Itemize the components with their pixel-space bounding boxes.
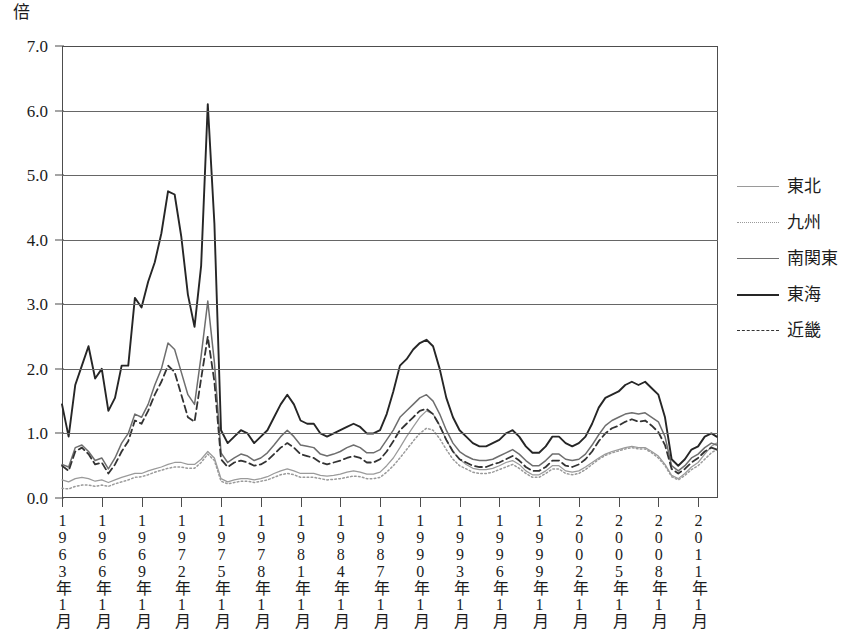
chart-legend: 東北九州南関東東海近畿 — [737, 168, 861, 348]
gridline — [62, 369, 718, 370]
y-tick-label: 6.0 — [27, 102, 48, 119]
legend-line-swatch-tokai — [737, 287, 779, 301]
gridline — [62, 240, 718, 241]
x-tick-label: 1966年1月 — [94, 512, 110, 629]
gridline — [62, 175, 718, 176]
legend-line-swatch-tohoku — [737, 179, 779, 193]
x-tick-mark — [142, 498, 143, 507]
x-tick-mark — [261, 498, 262, 507]
gridline — [62, 304, 718, 305]
legend-label-tohoku: 東北 — [787, 177, 821, 195]
y-tick-label: 7.0 — [27, 38, 48, 55]
legend-label-tokai: 東海 — [787, 285, 821, 303]
y-axis: 7.06.05.04.03.02.01.00.0 — [0, 0, 62, 614]
x-tick-label: 2002年1月 — [571, 512, 587, 629]
x-tick-label: 1978年1月 — [253, 512, 269, 629]
plot-area — [62, 46, 718, 498]
x-tick-mark — [619, 498, 620, 507]
x-tick-mark — [102, 498, 103, 507]
x-tick-mark — [221, 498, 222, 507]
legend-label-minamikanto: 南関東 — [787, 249, 838, 267]
legend-item-tohoku[interactable]: 東北 — [737, 168, 861, 204]
y-tick-label: 1.0 — [27, 425, 48, 442]
x-tick-mark — [301, 498, 302, 507]
x-tick-label: 1987年1月 — [372, 512, 388, 629]
series-line-tokai — [62, 104, 717, 466]
x-tick-mark — [340, 498, 341, 507]
y-tick-label: 0.0 — [27, 490, 48, 507]
x-tick-mark — [380, 498, 381, 507]
y-tick-label: 2.0 — [27, 360, 48, 377]
legend-item-tokai[interactable]: 東海 — [737, 276, 861, 312]
x-tick-label: 1963年1月 — [54, 512, 70, 629]
x-tick-label: 1969年1月 — [134, 512, 150, 629]
x-tick-label: 1999年1月 — [531, 512, 547, 629]
x-tick-label: 1975年1月 — [213, 512, 229, 629]
y-tick-label: 4.0 — [27, 231, 48, 248]
gridline — [62, 433, 718, 434]
legend-item-kinki[interactable]: 近畿 — [737, 312, 861, 348]
gridline — [62, 111, 718, 112]
y-tick-label: 5.0 — [27, 167, 48, 184]
y-tick-label: 3.0 — [27, 296, 48, 313]
x-tick-label: 1972年1月 — [173, 512, 189, 629]
x-tick-mark — [460, 498, 461, 507]
legend-item-minamikanto[interactable]: 南関東 — [737, 240, 861, 276]
chart-lines — [62, 46, 718, 498]
series-line-kyushu — [62, 428, 717, 489]
x-tick-mark — [499, 498, 500, 507]
x-tick-mark — [62, 498, 63, 507]
x-tick-mark — [658, 498, 659, 507]
x-tick-label: 2008年1月 — [650, 512, 666, 629]
x-tick-label: 2011年1月 — [690, 512, 706, 629]
legend-line-swatch-kyushu — [737, 215, 779, 229]
x-tick-label: 1990年1月 — [412, 512, 428, 629]
x-tick-label: 1996年1月 — [491, 512, 507, 629]
legend-item-kyushu[interactable]: 九州 — [737, 204, 861, 240]
legend-line-swatch-kinki — [737, 323, 779, 337]
x-tick-label: 1993年1月 — [452, 512, 468, 629]
x-tick-mark — [420, 498, 421, 507]
legend-label-kinki: 近畿 — [787, 321, 821, 339]
x-tick-mark — [698, 498, 699, 507]
x-tick-mark — [539, 498, 540, 507]
x-tick-label: 2005年1月 — [611, 512, 627, 629]
legend-label-kyushu: 九州 — [787, 213, 821, 231]
x-tick-mark — [181, 498, 182, 507]
x-tick-label: 1981年1月 — [293, 512, 309, 629]
legend-line-swatch-minamikanto — [737, 251, 779, 265]
x-tick-label: 1984年1月 — [332, 512, 348, 629]
x-tick-mark — [579, 498, 580, 507]
cropped-caption-strip — [0, 600, 863, 614]
